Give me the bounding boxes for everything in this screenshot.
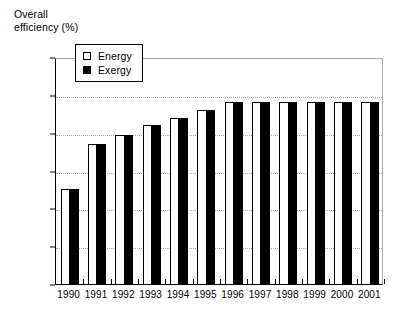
x-axis-tick-mark bbox=[247, 279, 248, 284]
x-axis-tick-mark bbox=[220, 279, 221, 284]
bar-group bbox=[329, 59, 356, 284]
bar-group bbox=[56, 59, 83, 284]
x-axis-tick-mark bbox=[329, 279, 330, 284]
bar-group bbox=[193, 59, 220, 284]
bar-exergy-1998 bbox=[288, 102, 298, 284]
chart-axis-title: Overall efficiency (%) bbox=[14, 8, 78, 34]
x-axis-tick-mark bbox=[111, 279, 112, 284]
legend-label-energy: Energy bbox=[98, 50, 132, 62]
x-axis-tick-mark bbox=[357, 279, 358, 284]
bar-exergy-1997 bbox=[260, 102, 270, 284]
bar-exergy-1994 bbox=[178, 118, 188, 284]
bar-group bbox=[138, 59, 165, 284]
bar-group bbox=[275, 59, 302, 284]
bar-group bbox=[220, 59, 247, 284]
bar-group bbox=[83, 59, 110, 284]
bar-exergy-1995 bbox=[206, 110, 216, 284]
x-axis-tick-mark bbox=[165, 279, 166, 284]
x-axis-tick-mark bbox=[138, 279, 139, 284]
open-square-icon bbox=[83, 52, 91, 60]
legend-label-exergy: Exergy bbox=[98, 64, 131, 76]
x-axis-tick-mark bbox=[193, 279, 194, 284]
bar-group bbox=[302, 59, 329, 284]
bar-exergy-1993 bbox=[151, 125, 161, 284]
bar-exergy-1996 bbox=[233, 102, 243, 284]
bar-exergy-1999 bbox=[315, 102, 325, 284]
bar-exergy-2001 bbox=[370, 102, 380, 284]
bar-group bbox=[357, 59, 384, 284]
bar-chart-figure: Overall efficiency (%) 22.522.322.121.92… bbox=[0, 0, 400, 319]
bar-group bbox=[165, 59, 192, 284]
x-axis-tick-label: 2001 bbox=[352, 289, 386, 300]
filled-square-icon bbox=[83, 66, 91, 74]
plot-area bbox=[55, 58, 383, 285]
legend-entry-energy: Energy bbox=[83, 49, 132, 63]
legend-entry-exergy: Exergy bbox=[83, 63, 132, 77]
x-axis-tick-mark bbox=[275, 279, 276, 284]
bar-exergy-1990 bbox=[69, 189, 79, 284]
bar-exergy-1991 bbox=[96, 144, 106, 284]
chart-legend: Energy Exergy bbox=[75, 44, 143, 82]
x-axis-tick-mark bbox=[83, 279, 84, 284]
bar-exergy-2000 bbox=[342, 102, 352, 284]
bar-group bbox=[111, 59, 138, 284]
bar-group bbox=[247, 59, 274, 284]
bar-exergy-1992 bbox=[124, 135, 134, 284]
x-axis-tick-mark bbox=[302, 279, 303, 284]
bar-group-layer bbox=[56, 59, 382, 284]
x-axis-tick-mark bbox=[384, 279, 385, 284]
